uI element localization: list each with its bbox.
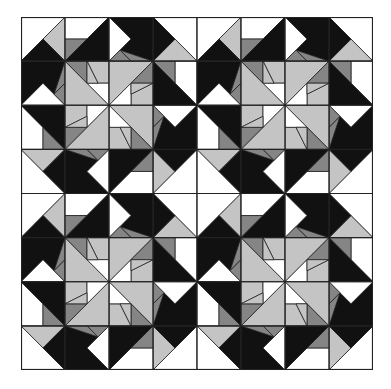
quilt-pattern: [21, 17, 373, 370]
quilt-svg: [21, 17, 373, 370]
